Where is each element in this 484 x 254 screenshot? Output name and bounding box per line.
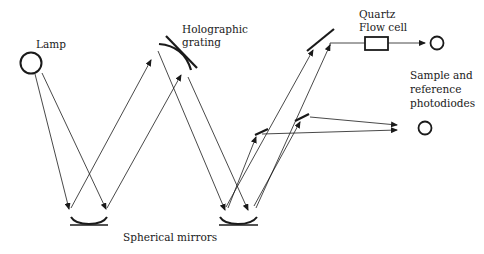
lamp-icon bbox=[21, 53, 42, 74]
optical-diagram: Lamp Holographic grating Quartz Flow cel… bbox=[0, 0, 484, 254]
flowcell-label-line2: Flow cell bbox=[359, 20, 407, 34]
diagram-drawing bbox=[0, 0, 484, 254]
grating-label-line1: Holographic bbox=[182, 22, 248, 36]
flowcell-label-line1: Quartz bbox=[359, 7, 395, 21]
quartz-flow-cell-icon bbox=[365, 37, 388, 50]
lamp-label: Lamp bbox=[36, 37, 66, 51]
beam-reference-path bbox=[262, 117, 397, 134]
beam-mirror-to-grating bbox=[71, 60, 181, 208]
spherical-mirrors-label: Spherical mirrors bbox=[123, 230, 217, 244]
beam-mirror-to-splitters bbox=[226, 45, 330, 208]
photodiodes-label-line1: Sample and bbox=[410, 68, 473, 82]
grating-label-line2: grating bbox=[182, 35, 221, 49]
spherical-mirror-right-icon bbox=[219, 217, 258, 225]
beam-lamp-to-mirror bbox=[35, 73, 106, 209]
beam-grating-to-mirror bbox=[158, 51, 248, 210]
spherical-mirror-left-icon bbox=[70, 217, 108, 225]
photodiodes-label-line3: photodiodes bbox=[410, 96, 475, 110]
photodiodes-label-line2: reference bbox=[410, 82, 461, 96]
beam-sample-path bbox=[330, 43, 425, 46]
sample-photodiode-icon bbox=[431, 37, 444, 50]
upper-flat-mirror-icon bbox=[307, 29, 334, 51]
reference-photodiode-icon bbox=[419, 122, 432, 135]
